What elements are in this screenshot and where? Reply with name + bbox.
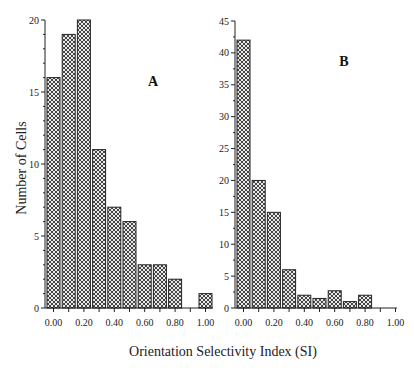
y-tick-label: 30 [219,111,229,122]
x-tick-label: 0.20 [75,317,93,328]
y-tick-label: 40 [219,47,229,58]
histogram-bar [93,150,106,308]
x-tick-label: 0.00 [45,317,63,328]
histogram-bar [237,40,250,308]
x-tick-label: 0.00 [235,317,253,328]
panel-a: 051015200.000.200.400.600.801.00A [29,15,214,329]
histogram-bar [153,265,166,308]
x-tick-label: 0.60 [136,317,154,328]
histogram-bar [199,294,212,308]
histogram-bar [62,34,75,308]
panel-letter: B [339,54,348,69]
histogram-bar [252,180,265,308]
y-tick-label: 5 [34,231,39,242]
y-tick-label: 25 [219,143,229,154]
histogram-bar [77,20,90,308]
y-tick-label: 35 [219,79,229,90]
x-tick-label: 0.80 [356,317,374,328]
histogram-bar [283,270,296,308]
histogram-bar [47,78,60,308]
histogram-bar [343,302,356,308]
histogram-bar [298,295,311,308]
histogram-figure: 051015200.000.200.400.600.801.00A 051015… [0,0,414,375]
x-tick-label: 1.00 [197,317,215,328]
y-tick-label: 15 [29,87,39,98]
x-tick-label: 0.60 [326,317,344,328]
y-tick-label: 45 [219,16,229,27]
x-tick-label: 0.40 [106,317,124,328]
y-axis-title: Number of Cells [14,121,29,214]
y-tick-label: 20 [219,175,229,186]
y-tick-label: 0 [34,303,39,314]
y-tick-label: 15 [219,207,229,218]
y-tick-label: 10 [219,239,229,250]
x-tick-label: 0.20 [265,317,283,328]
x-tick-label: 1.00 [387,317,405,328]
x-axis-title: Orientation Selectivity Index (SI) [129,344,317,360]
x-tick-label: 0.40 [296,317,314,328]
x-tick-label: 0.80 [166,317,184,328]
y-tick-label: 20 [29,15,39,26]
panel-b: 0510152025303540450.000.200.400.600.801.… [219,16,404,329]
panel-letter: A [148,74,159,89]
histogram-bar [359,295,372,308]
histogram-bar [267,212,280,308]
histogram-bar [169,279,182,308]
histogram-bar [138,265,151,308]
y-tick-label: 5 [224,271,229,282]
y-tick-label: 10 [29,159,39,170]
histogram-bar [313,298,326,308]
y-tick-label: 0 [224,303,229,314]
histogram-bar [123,222,136,308]
histogram-bar [108,207,121,308]
histogram-bar [328,291,341,308]
